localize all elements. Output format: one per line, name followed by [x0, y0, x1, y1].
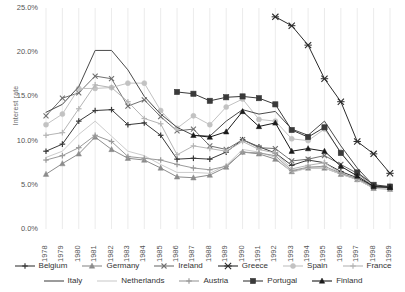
legend-marker-austria-icon — [178, 276, 200, 286]
legend-marker-portugal-icon — [242, 276, 264, 286]
legend-row-1: BelgiumGermanyIrelandGreeceSpainFrance — [0, 258, 405, 273]
legend-item-greece[interactable]: Greece — [217, 261, 268, 271]
legend-marker-italy-icon — [43, 276, 65, 286]
legend-marker-spain-icon — [282, 261, 304, 271]
y-tick-label: 5.0% — [4, 181, 38, 189]
y-tick-label: 15.0% — [4, 92, 38, 100]
legend-item-italy[interactable]: Italy — [43, 276, 83, 286]
plot-area — [38, 8, 398, 229]
chart-canvas — [38, 8, 398, 229]
legend-marker-greece-icon — [217, 261, 239, 271]
legend-label: Ireland — [178, 261, 202, 271]
legend-item-austria[interactable]: Austria — [178, 276, 228, 286]
legend-item-germany[interactable]: Germany — [81, 261, 139, 271]
legend-label: Finland — [336, 276, 362, 286]
legend-label: Spain — [307, 261, 327, 271]
legend-label: Austria — [203, 276, 228, 286]
legend-marker-netherlands-icon — [96, 276, 118, 286]
legend-label: Italy — [68, 276, 83, 286]
legend-marker-finland-icon — [311, 276, 333, 286]
legend-item-ireland[interactable]: Ireland — [153, 261, 202, 271]
legend-item-france[interactable]: France — [342, 261, 392, 271]
y-tick-label: 20.0% — [4, 48, 38, 56]
legend-label: Portugal — [267, 276, 297, 286]
legend-label: Belgium — [39, 261, 68, 271]
legend-label: France — [367, 261, 392, 271]
y-tick-label: 10.0% — [4, 137, 38, 145]
legend-item-belgium[interactable]: Belgium — [14, 261, 68, 271]
legend-label: Netherlands — [121, 276, 164, 286]
legend-item-netherlands[interactable]: Netherlands — [96, 276, 164, 286]
series-germany — [43, 134, 392, 191]
series-austria — [43, 132, 393, 190]
legend-marker-ireland-icon — [153, 261, 175, 271]
chart-legend: BelgiumGermanyIrelandGreeceSpainFrance I… — [0, 258, 405, 292]
legend-marker-belgium-icon — [14, 261, 36, 271]
chart-root: Interest rate 25.0%20.0%15.0%10.0%5.0%0.… — [0, 0, 405, 292]
grid-lines — [46, 8, 390, 229]
legend-marker-france-icon — [342, 261, 364, 271]
legend-item-finland[interactable]: Finland — [311, 276, 362, 286]
legend-item-portugal[interactable]: Portugal — [242, 276, 297, 286]
legend-label: Greece — [242, 261, 268, 271]
y-axis-tick-labels: 25.0%20.0%15.0%10.0%5.0%0.0% — [0, 0, 38, 240]
legend-marker-germany-icon — [81, 261, 103, 271]
legend-label: Germany — [106, 261, 139, 271]
legend-item-spain[interactable]: Spain — [282, 261, 327, 271]
y-tick-label: 25.0% — [4, 4, 38, 12]
legend-row-2: ItalyNetherlandsAustriaPortugalFinland — [0, 273, 405, 288]
y-tick-label: 0.0% — [4, 225, 38, 233]
